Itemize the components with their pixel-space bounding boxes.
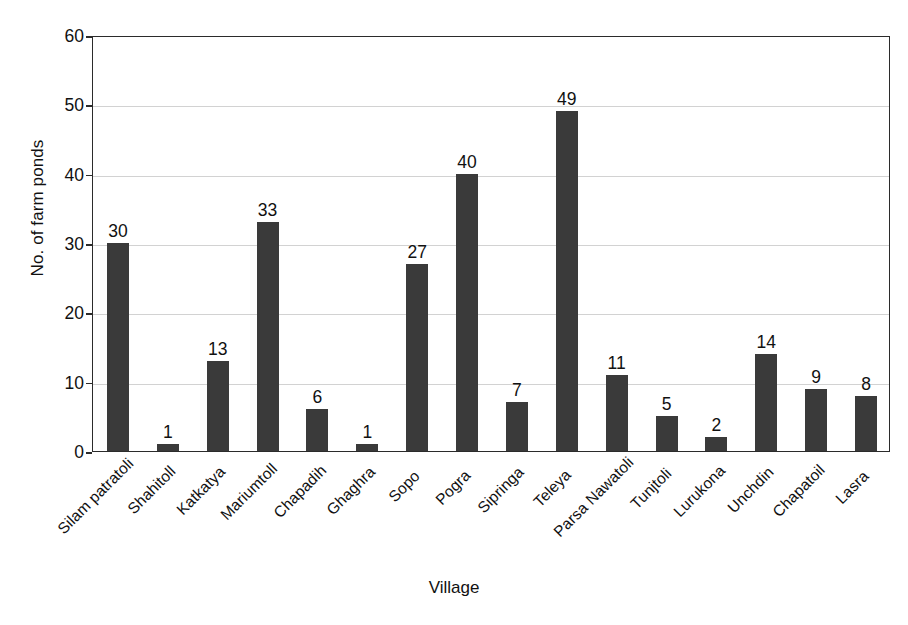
bar-value-label: 6 [313,387,323,408]
bar[interactable] [705,437,727,451]
x-tick-label: Shahitoll [124,462,179,517]
bar[interactable] [656,416,678,451]
y-tick-label: 0 [30,442,84,463]
bar[interactable] [456,174,478,451]
bar-value-label: 30 [108,221,127,242]
x-tick-label: Chapadih [270,461,330,521]
bar-value-label: 9 [811,367,821,388]
y-tick-label: 60 [30,26,84,47]
bar[interactable] [755,354,777,451]
bar-value-label: 14 [757,332,776,353]
x-tick-label: Katkatya [173,462,229,518]
gridline [93,314,889,315]
bar[interactable] [107,243,129,451]
bar-value-label: 11 [608,353,626,374]
bar-value-label: 5 [662,394,672,415]
bar[interactable] [805,389,827,451]
x-tick-label: Mariumtoll [217,460,281,524]
plot-area: 301133361274074911521498 [92,36,890,452]
bar-value-label: 13 [208,339,227,360]
bar-value-label: 40 [457,152,476,173]
x-tick-label: Tunjtoli [627,465,675,513]
bar[interactable] [257,222,279,451]
bar-value-label: 8 [861,374,871,395]
gridline [93,106,889,107]
x-tick-label: Sipringa [474,463,528,517]
bar[interactable] [506,402,528,451]
y-tick-label: 10 [30,372,84,393]
y-tick-label: 40 [30,164,84,185]
bar[interactable] [356,444,378,451]
y-tick-label: 50 [30,95,84,116]
bar-value-label: 49 [557,89,576,110]
bar-value-label: 33 [258,200,277,221]
x-axis-title: Village [0,578,908,598]
x-tick-label: Silam patratoli [54,454,137,537]
bar[interactable] [406,264,428,451]
bar[interactable] [306,409,328,451]
x-tick-label: Parsa Nawatoli [550,453,637,540]
gridline [93,176,889,177]
bar-value-label: 1 [362,422,372,443]
x-tick-label: Pogra [432,466,474,508]
bar-value-label: 2 [712,415,722,436]
bar[interactable] [556,111,578,451]
bar-chart: No. of farm ponds 0102030405060 30113336… [0,0,908,625]
x-tick-label: Unchdin [724,463,777,516]
y-tick-label: 30 [30,234,84,255]
y-tick-label: 20 [30,303,84,324]
bar-value-label: 1 [163,422,173,443]
y-axis-ticks: 0102030405060 [20,36,84,452]
x-tick-label: Ghaghra [323,462,379,518]
x-tick-label: Sopo [385,467,424,506]
bar[interactable] [855,396,877,451]
bar[interactable] [606,375,628,451]
x-tick-label: Teleya [530,466,575,511]
gridline [93,245,889,246]
bar[interactable] [207,361,229,451]
bar-value-label: 7 [512,380,522,401]
bar-value-label: 27 [407,242,426,263]
x-tick-label: Lasra [832,467,873,508]
y-tick-mark [86,452,92,454]
bar[interactable] [157,444,179,451]
x-tick-label: Lurukona [670,461,729,520]
x-tick-label: Chapatoil [769,461,829,521]
